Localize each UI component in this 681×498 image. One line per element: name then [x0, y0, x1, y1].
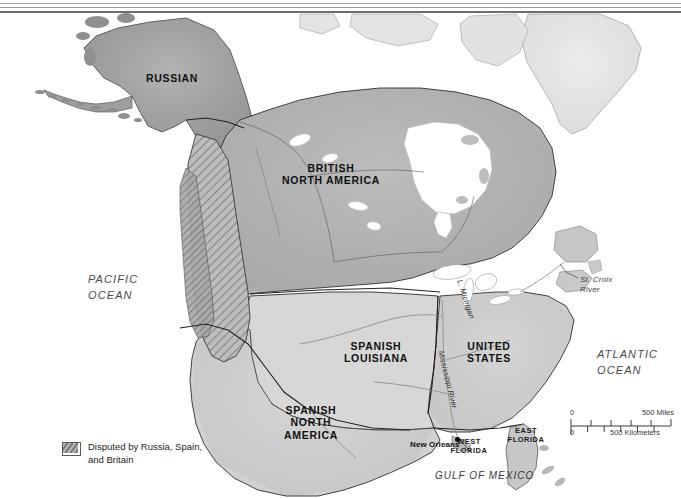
scale-miles-zero: 0 — [570, 408, 574, 417]
top-rule-thin-upper — [0, 3, 681, 4]
scale-km-zero: 0 — [570, 428, 574, 437]
scale-km-max: 500 Kilometers — [610, 428, 660, 437]
historical-map: RUSSIAN BRITISH NORTH AMERICA SPANISH LO… — [0, 0, 681, 498]
territory-label-united-states: UNITED STATES — [455, 340, 523, 365]
city-label-new-orleans: New Orleans — [410, 440, 460, 449]
territory-label-spanish-louisiana: SPANISH LOUISIANA — [335, 340, 417, 365]
ocean-label-atlantic: ATLANTIC OCEAN — [597, 347, 658, 379]
territory-label-spanish-north-america: SPANISH NORTH AMERICA — [272, 404, 350, 441]
ocean-label-pacific: PACIFIC OCEAN — [88, 272, 138, 304]
scale-miles-max: 500 Miles — [642, 408, 674, 417]
top-rule-thin-lower — [0, 7, 681, 8]
territory-label-russian: RUSSIAN — [142, 72, 202, 84]
scale-bar-axis — [570, 419, 674, 428]
sea-label-gulf-of-mexico: GULF OF MEXICO — [435, 470, 534, 482]
legend-label-disputed: Disputed by Russia, Spain, and Britain — [88, 441, 202, 467]
region-label-east-florida: EAST FLORIDA — [503, 426, 549, 445]
water-feature-label-st-croix-river: St. Croix River — [580, 275, 612, 296]
disputed-territory-swatch — [62, 442, 81, 456]
map-legend: Disputed by Russia, Spain, and Britain — [62, 441, 202, 467]
scale-bar: 0 500 Miles — [570, 408, 674, 439]
territory-label-british-north-america: BRITISH NORTH AMERICA — [275, 162, 387, 187]
